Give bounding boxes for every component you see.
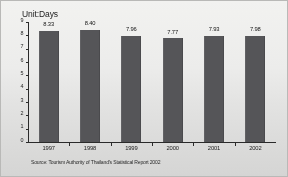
- bar-value-label: 8.40: [73, 21, 107, 27]
- y-axis-tick: 0: [26, 142, 30, 143]
- y-axis-tick: 5: [26, 75, 30, 76]
- y-axis-tick: 1: [26, 129, 30, 130]
- bar-group: 7.932001: [197, 22, 231, 142]
- plot-area: 0123456789 8.3319978.4019987.9619997.772…: [28, 23, 276, 143]
- y-axis-tick-label: 9: [21, 18, 24, 23]
- y-axis-tick: 6: [26, 62, 30, 63]
- y-axis-tick: 2: [26, 115, 30, 116]
- y-axis-tick-label: 1: [21, 124, 24, 129]
- bar: [39, 31, 59, 142]
- x-axis-tick: [193, 143, 194, 146]
- bar-group: 8.331997: [32, 22, 66, 142]
- y-axis-tick-label: 6: [21, 58, 24, 63]
- bar: [245, 36, 265, 142]
- bar: [204, 36, 224, 142]
- x-axis-category-label: 2001: [197, 146, 231, 152]
- bar-group: 7.982002: [238, 22, 272, 142]
- bar-value-label: 8.33: [32, 22, 66, 28]
- y-axis-tick-label: 8: [21, 31, 24, 36]
- bar-group: 7.772000: [156, 22, 190, 142]
- bar-group: 8.401998: [73, 22, 107, 142]
- x-axis-category-label: 2002: [238, 146, 272, 152]
- bar: [163, 38, 183, 142]
- y-axis-tick-label: 5: [21, 71, 24, 76]
- x-axis-category-label: 1997: [32, 146, 66, 152]
- unit-label: Unit:Days: [22, 9, 58, 19]
- bar-value-label: 7.98: [238, 27, 272, 33]
- bar-value-label: 7.93: [197, 27, 231, 33]
- y-axis-tick-label: 3: [21, 98, 24, 103]
- y-axis-tick: 9: [26, 22, 30, 23]
- y-axis-tick: 4: [26, 89, 30, 90]
- x-axis-tick: [152, 143, 153, 146]
- y-axis-tick: 8: [26, 35, 30, 36]
- bar-value-label: 7.77: [156, 30, 190, 36]
- y-axis-line: [28, 23, 29, 143]
- x-axis-category-label: 1999: [114, 146, 148, 152]
- bar-group: 7.961999: [114, 22, 148, 142]
- bar-value-label: 7.96: [114, 27, 148, 33]
- y-axis-tick: 3: [26, 102, 30, 103]
- x-axis-tick: [69, 143, 70, 146]
- x-axis-category-label: 2000: [156, 146, 190, 152]
- x-axis-tick: [235, 143, 236, 146]
- source-note: Source: Tourism Authority of Thailand's …: [31, 159, 160, 165]
- chart-figure: Unit:Days 0123456789 8.3319978.4019987.9…: [0, 0, 288, 177]
- bar: [80, 30, 100, 142]
- y-axis-tick-label: 2: [21, 111, 24, 116]
- x-axis-tick: [111, 143, 112, 146]
- y-axis-tick-label: 0: [21, 138, 24, 143]
- y-axis-tick: 7: [26, 49, 30, 50]
- x-axis-category-label: 1998: [73, 146, 107, 152]
- y-axis-tick-label: 7: [21, 44, 24, 49]
- y-axis-tick-label: 4: [21, 84, 24, 89]
- bar: [121, 36, 141, 142]
